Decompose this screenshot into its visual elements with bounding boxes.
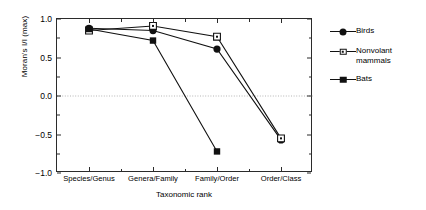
x-axis-tick-mark	[153, 167, 154, 171]
data-point-nonvolant	[278, 135, 285, 142]
data-point-nonvolant	[214, 33, 221, 40]
x-axis-tick-mark	[281, 19, 282, 23]
y-axis-tick-label: −1.0	[35, 169, 52, 178]
y-axis-tick-mark	[307, 57, 311, 58]
y-axis-minor-tick	[57, 38, 60, 39]
x-axis-tick-label: Family/Order	[195, 175, 239, 183]
legend-symbol	[340, 76, 347, 83]
x-axis-tick-mark	[217, 19, 218, 23]
x-axis-tick-label: Order/Class	[261, 175, 302, 183]
x-axis-tick-mark	[89, 167, 90, 171]
x-axis-minor-tick	[185, 169, 186, 172]
legend-item: Bats	[330, 74, 424, 85]
x-axis-minor-tick	[121, 169, 122, 172]
data-point-nonvolant	[150, 23, 157, 30]
y-axis-minor-tick	[57, 76, 60, 77]
y-axis-tick-mark	[57, 173, 61, 174]
legend-marker-filled-square-icon	[330, 74, 356, 85]
series-line-nonvolant	[89, 26, 281, 138]
y-axis-tick-mark	[57, 134, 61, 135]
x-axis-tick-mark	[153, 19, 154, 23]
legend-label: Bats	[356, 74, 372, 84]
y-axis-tick-mark	[307, 134, 311, 135]
y-axis-tick-mark	[307, 96, 311, 97]
y-axis-tick-label: 1.0	[40, 15, 52, 24]
y-axis-tick-label: 0.0	[40, 92, 52, 101]
y-axis-tick-label: 0.5	[40, 53, 52, 62]
y-axis-tick-mark	[57, 96, 61, 97]
y-axis-tick-mark	[57, 57, 61, 58]
legend-symbol	[340, 48, 347, 55]
x-axis-tick-label: Species/Genus	[63, 175, 115, 183]
legend-item: Nonvolant mammals	[330, 46, 424, 65]
y-axis-minor-tick	[57, 153, 60, 154]
plot-svg	[57, 19, 313, 173]
legend-label: Birds	[356, 26, 374, 36]
legend-symbol	[340, 28, 347, 35]
x-axis-minor-tick	[121, 19, 122, 22]
series-line-birds	[89, 28, 281, 140]
y-axis-tick-mark	[57, 19, 61, 20]
data-point-birds	[213, 45, 220, 52]
x-axis-title: Taxonomic rank	[56, 190, 312, 199]
x-axis-tick-mark	[281, 167, 282, 171]
x-axis-tick-mark	[217, 167, 218, 171]
chart-legend: BirdsNonvolant mammalsBats	[330, 26, 424, 94]
data-point-bats	[214, 148, 220, 154]
y-axis-tick-mark	[307, 173, 311, 174]
data-point-bats	[150, 37, 156, 43]
legend-label: Nonvolant mammals	[356, 46, 392, 65]
legend-marker-open-square-dot-icon	[330, 46, 356, 57]
x-axis-minor-tick	[249, 19, 250, 22]
series-line-bats	[89, 29, 217, 151]
data-point-bats	[86, 26, 92, 32]
x-axis-minor-tick	[249, 169, 250, 172]
legend-marker-filled-circle-icon	[330, 26, 356, 37]
y-axis-tick-label: −0.5	[35, 130, 52, 139]
y-axis-minor-tick	[309, 115, 312, 116]
y-axis-minor-tick	[309, 153, 312, 154]
figure: 1.00.50.0−0.5−1.0Species/GenusGenera/Fam…	[0, 0, 426, 210]
y-axis-tick-mark	[307, 19, 311, 20]
y-axis-minor-tick	[309, 38, 312, 39]
plot-area: 1.00.50.0−0.5−1.0Species/GenusGenera/Fam…	[56, 18, 312, 172]
y-axis-title: Moran's I/I (max)	[20, 0, 29, 107]
x-axis-tick-mark	[89, 19, 90, 23]
x-axis-tick-label: Genera/Family	[128, 175, 178, 183]
x-axis-minor-tick	[185, 19, 186, 22]
y-axis-minor-tick	[309, 76, 312, 77]
y-axis-minor-tick	[57, 115, 60, 116]
legend-item: Birds	[330, 26, 424, 37]
